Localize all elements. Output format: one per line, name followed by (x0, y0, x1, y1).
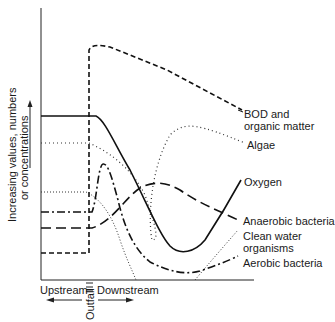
y-arrow-head-icon (28, 100, 33, 107)
label-upstream: Upstream (40, 284, 88, 296)
y-axis-label-2: or concentrations (18, 116, 30, 200)
label-downstream: Downstream (97, 284, 159, 296)
label-algae: Algae (247, 139, 275, 151)
aerobic-curve (41, 164, 238, 273)
algae-curve (41, 126, 245, 240)
label-aerobic: Aerobic bacteria (243, 257, 323, 269)
bod-curve (41, 45, 242, 253)
label-oxygen: Oxygen (244, 176, 282, 188)
label-anaerobic: Anaerobic bacteria (243, 215, 335, 227)
label-clean-water-2: organisms (243, 242, 294, 254)
label-bod-2: organic matter (244, 120, 314, 132)
label-clean-water: Clean water (243, 230, 302, 242)
label-bod: BOD and (244, 108, 289, 120)
oxygen-curve (41, 116, 241, 252)
y-axis-label-1: Increasing values, numbers (6, 87, 18, 222)
label-outfall: Outfall (84, 288, 96, 320)
